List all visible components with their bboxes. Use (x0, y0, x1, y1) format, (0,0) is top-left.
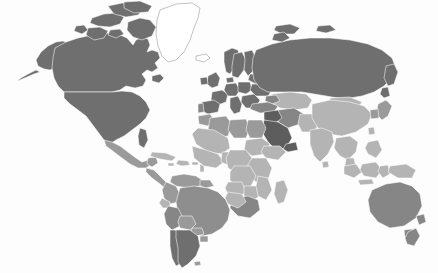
island-taiwan (368, 127, 375, 135)
island-sri-lanka (322, 161, 329, 168)
country-ireland (200, 77, 208, 85)
country-egypt (246, 120, 266, 138)
island-jamaica (168, 163, 174, 166)
country-north-south-korea (370, 109, 379, 119)
country-russia (252, 38, 396, 98)
country-uruguay (200, 236, 208, 242)
falkland-islands (194, 261, 201, 266)
country-denmark (226, 77, 234, 83)
island-puerto-rico (192, 162, 198, 165)
country-canada (52, 33, 160, 92)
island-java (358, 179, 374, 185)
world-map-figure (0, 0, 438, 273)
country-portugal (198, 103, 204, 113)
world-map-svg (0, 0, 438, 273)
